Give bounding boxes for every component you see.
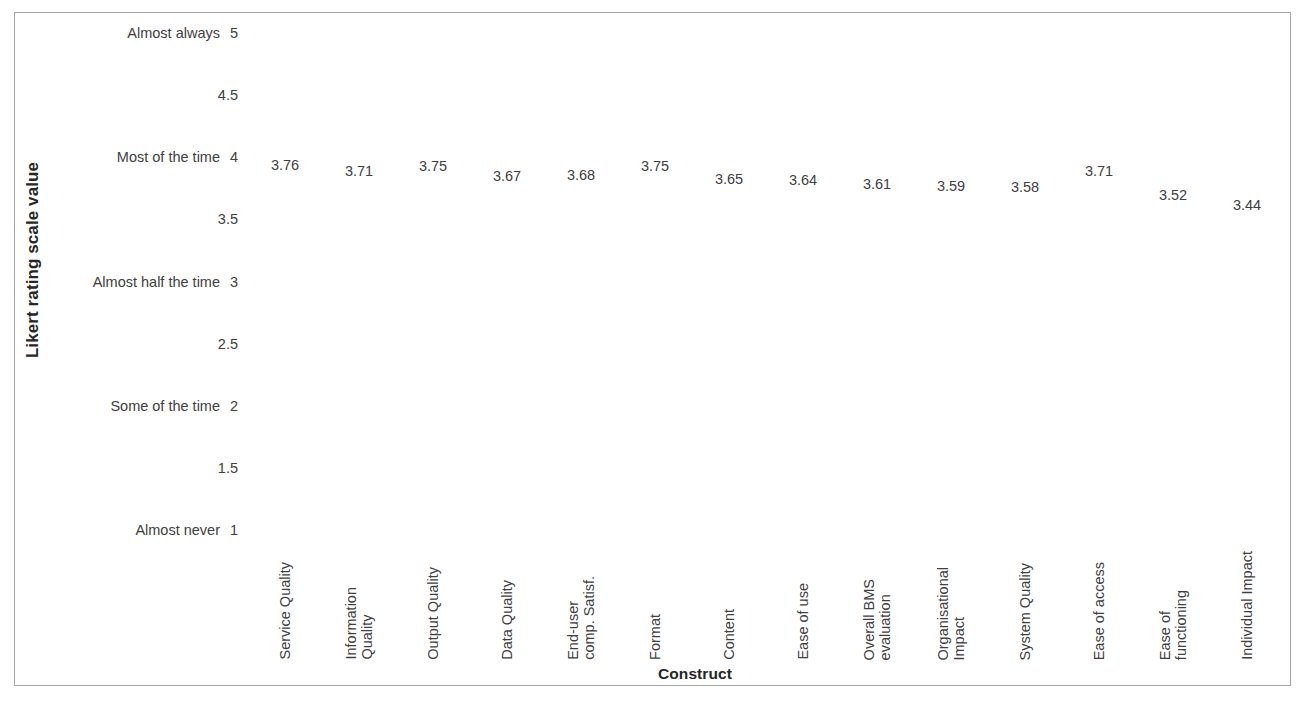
x-axis-category-text: End-user comp. Satisf. <box>565 576 597 660</box>
x-axis-category-label: Format <box>647 534 663 660</box>
data-point-label: 3.75 <box>419 158 447 174</box>
x-axis-category-label: Organisational Impact <box>935 534 967 660</box>
x-axis-category-label: Information Quality <box>343 534 375 660</box>
x-axis-category-label: Individual Impact <box>1239 534 1255 660</box>
data-point-label: 3.59 <box>937 178 965 194</box>
data-point-label: 3.75 <box>641 158 669 174</box>
y-axis-tick: 1.5 <box>0 458 248 478</box>
y-axis-tick: Most of the time4 <box>0 147 248 167</box>
x-axis-category-label: Content <box>721 534 737 660</box>
y-axis-tick-value: 2.5 <box>212 334 238 354</box>
x-axis-category-text: Data Quality <box>499 580 515 660</box>
y-axis-tick-value: 5 <box>212 23 238 43</box>
data-point-label: 3.52 <box>1159 187 1187 203</box>
y-axis-tick-value: 1 <box>212 520 238 540</box>
x-axis-category-label: Ease of use <box>795 534 811 660</box>
y-axis-tick: Almost half the time3 <box>0 272 248 292</box>
x-axis-category-label: System Quality <box>1017 534 1033 660</box>
data-point-label: 3.68 <box>567 167 595 183</box>
x-axis-category-text: Output Quality <box>425 567 441 660</box>
x-axis-category-text: Overall BMS evaluation <box>861 579 893 660</box>
data-point-label: 3.61 <box>863 176 891 192</box>
y-axis-tick-description: Some of the time <box>110 396 220 416</box>
x-axis-category-text: Information Quality <box>343 587 375 660</box>
x-axis-category-labels: Service QualityInformation QualityOutput… <box>248 534 1284 660</box>
y-axis-tick: Almost never1 <box>0 520 248 540</box>
x-axis-category-text: Format <box>647 614 663 660</box>
y-axis-tick: 4.5 <box>0 85 248 105</box>
data-point-label: 3.76 <box>271 157 299 173</box>
x-axis-category-text: System Quality <box>1017 563 1033 661</box>
y-axis-tick-value: 4 <box>212 147 238 167</box>
y-axis-tick-description: Most of the time <box>117 147 220 167</box>
y-axis-tick-description: Almost half the time <box>93 272 220 292</box>
y-axis-tick-value: 4.5 <box>212 85 238 105</box>
x-axis-category-label: Service Quality <box>277 534 293 660</box>
y-axis-tick-value: 3.5 <box>212 209 238 229</box>
data-point-label: 3.65 <box>715 171 743 187</box>
y-axis-tick-description: Almost always <box>127 23 220 43</box>
x-axis-category-label: Ease of access <box>1091 534 1107 660</box>
x-axis-category-label: Data Quality <box>499 534 515 660</box>
y-axis-tick-value: 3 <box>212 272 238 292</box>
data-point-label: 3.71 <box>345 163 373 179</box>
x-axis-category-text: Ease of use <box>795 583 811 660</box>
plot-area: 3.763.713.753.673.683.753.653.643.613.59… <box>248 22 1284 532</box>
y-axis-title: Likert rating scale value <box>20 0 46 520</box>
x-axis-category-label: End-user comp. Satisf. <box>565 534 597 660</box>
y-axis-tick: 2.5 <box>0 334 248 354</box>
x-axis-category-text: Content <box>721 609 737 660</box>
data-point-label: 3.71 <box>1085 163 1113 179</box>
x-axis-category-label: Output Quality <box>425 534 441 660</box>
y-axis-tick: Almost always5 <box>0 23 248 43</box>
data-point-label: 3.58 <box>1011 179 1039 195</box>
y-axis-tick-value: 1.5 <box>212 458 238 478</box>
x-axis-category-text: Ease of access <box>1091 562 1107 660</box>
data-point-label: 3.64 <box>789 172 817 188</box>
x-axis-title: Construct <box>600 665 790 683</box>
y-axis-tick: Some of the time2 <box>0 396 248 416</box>
x-axis-category-label: Ease of functioning <box>1157 534 1189 660</box>
x-axis-category-text: Service Quality <box>277 562 293 660</box>
data-point-label: 3.44 <box>1233 197 1261 213</box>
x-axis-category-text: Organisational Impact <box>935 567 967 661</box>
data-point-label: 3.67 <box>493 168 521 184</box>
x-axis-category-text: Ease of functioning <box>1157 590 1189 660</box>
y-axis-tick-value: 2 <box>212 396 238 416</box>
x-axis-category-label: Overall BMS evaluation <box>861 534 893 660</box>
y-axis-tick: 3.5 <box>0 209 248 229</box>
x-axis-category-text: Individual Impact <box>1239 551 1255 660</box>
y-axis-tick-description: Almost never <box>135 520 220 540</box>
chart-figure: Likert rating scale value Almost always5… <box>0 0 1306 703</box>
